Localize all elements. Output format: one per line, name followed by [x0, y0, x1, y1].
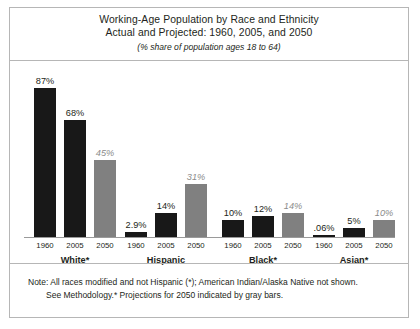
chart-subtitle: (% share of population ages 18 to 64) [137, 41, 280, 53]
bar-asian-2005: 5% [343, 228, 365, 237]
chart-title-line-2: Actual and Projected: 1960, 2005, and 20… [106, 27, 313, 40]
chart-plot-area: 87%196068%200545%2050White*2.9%196014%20… [10, 61, 408, 264]
x-tick-label: 2050 [373, 241, 395, 250]
bar-black-2050: 14% [282, 213, 304, 237]
bar-value-label: 10% [224, 208, 242, 218]
bar-rect [185, 184, 207, 237]
bar-asian-2050: 10% [373, 220, 395, 237]
bar-white-1960: 87% [34, 88, 56, 237]
bar-rect [94, 160, 116, 237]
bar-rect [313, 235, 335, 237]
x-tick-label: 2050 [282, 241, 304, 250]
bar-value-label: 87% [36, 76, 54, 86]
bar-rect [252, 216, 274, 237]
bar-asian-1960: .06% [313, 235, 335, 237]
bar-group-white: 87%196068%200545%2050White* [34, 61, 116, 264]
x-tick-label: 2050 [185, 241, 207, 250]
bar-black-1960: 10% [222, 220, 244, 237]
note-line-1: Note: All races modified and not Hispani… [28, 276, 390, 289]
bar-group-black: 10%196012%200514%2050Black* [222, 61, 304, 264]
bar-rect [373, 220, 395, 237]
bar-value-label: 68% [66, 108, 84, 118]
bar-hispanic-2050: 31% [185, 184, 207, 237]
bar-rect [343, 228, 365, 237]
x-tick-label: 1960 [222, 241, 244, 250]
bar-value-label: 14% [284, 201, 302, 211]
bar-hispanic-1960: 2.9% [125, 232, 147, 237]
bar-group-asian: .06%19605%200510%2050Asian* [313, 61, 395, 264]
bar-value-label: 5% [347, 216, 360, 226]
bar-rect [155, 213, 177, 237]
x-tick-label: 1960 [313, 241, 335, 250]
chart-title-line-1: Working-Age Population by Race and Ethni… [99, 14, 319, 27]
bar-value-label: 12% [254, 204, 272, 214]
x-tick-label: 2005 [155, 241, 177, 250]
bar-white-2050: 45% [94, 160, 116, 237]
chart-title-block: Working-Age Population by Race and Ethni… [10, 8, 408, 61]
bar-white-2005: 68% [64, 120, 86, 237]
bar-value-label: 14% [157, 201, 175, 211]
bar-value-label: 31% [187, 172, 205, 182]
chart-note-block: Note: All races modified and not Hispani… [10, 263, 408, 317]
bar-rect [64, 120, 86, 237]
x-tick-label: 2050 [94, 241, 116, 250]
note-line-2: See Methodology.* Projections for 2050 i… [28, 289, 390, 302]
x-tick-label: 1960 [34, 241, 56, 250]
x-tick-label: 2005 [64, 241, 86, 250]
chart-frame: Working-Age Population by Race and Ethni… [9, 7, 409, 318]
bar-hispanic-2005: 14% [155, 213, 177, 237]
bar-rect [125, 232, 147, 237]
bar-group-hispanic: 2.9%196014%200531%2050Hispanic [125, 61, 207, 264]
bar-rect [34, 88, 56, 237]
x-tick-label: 1960 [125, 241, 147, 250]
bar-value-label: .06% [314, 223, 335, 233]
bar-black-2005: 12% [252, 216, 274, 237]
x-tick-label: 2005 [343, 241, 365, 250]
bar-value-label: 10% [375, 208, 393, 218]
x-tick-label: 2005 [252, 241, 274, 250]
bar-rect [282, 213, 304, 237]
bar-value-label: 45% [96, 148, 114, 158]
bar-value-label: 2.9% [126, 220, 147, 230]
bar-rect [222, 220, 244, 237]
